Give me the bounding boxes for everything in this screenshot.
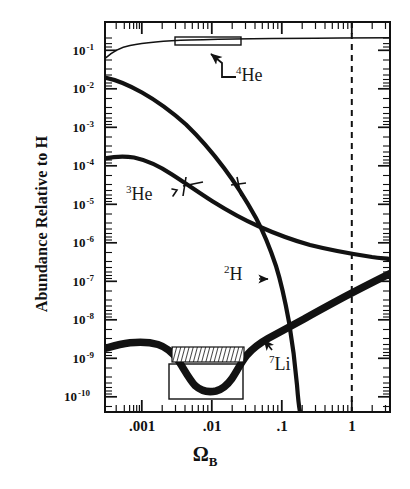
x-tick-label-1: 1 [322, 418, 382, 435]
li7-observation-hatched-box [172, 347, 244, 362]
x-tick-label-0001: .001 [112, 418, 172, 435]
curve-label-he3: 3He [126, 183, 153, 205]
he3-curve [105, 157, 390, 259]
y-tick-label-1e-2: 10-2 [38, 80, 94, 97]
h2-element: H [230, 264, 243, 284]
curve-label-he4: 4He [236, 64, 263, 86]
y-tick-label-1e-10: 10-10 [34, 388, 90, 405]
he4-observation-box [175, 37, 241, 45]
he4-element: He [242, 65, 263, 85]
he4-arrow [211, 54, 236, 77]
y-tick-label-1e-8: 10-8 [38, 311, 94, 328]
y-tick-label-1e-9: 10-9 [38, 350, 94, 367]
y-tick-label-1e-6: 10-6 [38, 234, 94, 251]
he3-element: He [132, 184, 153, 204]
he3-arrow [172, 189, 177, 196]
bbn-abundance-figure: Abundance Relative to H 10-1 10-2 10-3 1… [0, 0, 410, 489]
y-tick-label-1e-7: 10-7 [38, 273, 94, 290]
x-axis-ticks [116, 400, 385, 412]
x-axis-top-ticks [116, 22, 385, 34]
he4-curve [105, 38, 390, 59]
y-tick-label-1e-1: 10-1 [38, 42, 94, 59]
curve-label-h2: 2H [224, 263, 243, 285]
x-tick-label-001: .01 [182, 418, 242, 435]
li7-element: Li [275, 354, 291, 374]
x-tick-label-01: .1 [252, 418, 312, 435]
curve-label-li7: 7Li [269, 353, 291, 375]
x-axis-title-sub-b: B [209, 454, 218, 469]
li7-curve [105, 274, 390, 392]
x-axis-title-omega: Ω [193, 443, 209, 465]
x-axis-title: ΩB [0, 443, 410, 470]
y-axis-right-ticks [378, 38, 390, 407]
y-tick-label-1e-3: 10-3 [38, 119, 94, 136]
y-tick-label-1e-4: 10-4 [38, 157, 94, 174]
y-tick-label-1e-5: 10-5 [38, 196, 94, 213]
